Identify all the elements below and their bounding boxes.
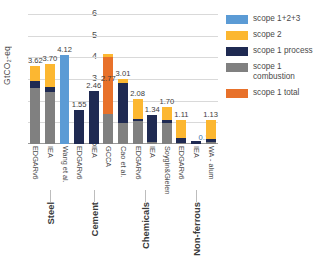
bar-slot: 1.13: [203, 14, 218, 144]
group-label-steel: Steel: [28, 190, 72, 270]
x-tick-text: EDGARv6: [31, 146, 40, 180]
bar-segment: [133, 121, 143, 144]
bar-segment: [30, 88, 40, 144]
x-tick-text: EDGARv6: [133, 146, 142, 180]
legend-swatch-icon: [226, 15, 248, 24]
bar-segment: [118, 83, 128, 123]
bar[interactable]: [147, 115, 157, 144]
x-tick-text: IEA: [148, 146, 157, 158]
x-tick-text: IEA: [45, 146, 54, 158]
bar-segment: [89, 91, 99, 144]
bar[interactable]: [162, 107, 172, 144]
legend-item[interactable]: scope 1 combustion: [226, 62, 329, 82]
x-tick-label: IEA: [189, 146, 204, 192]
bar-value-label: 1.70: [159, 97, 174, 106]
bar[interactable]: [118, 79, 128, 144]
bar-segment: [30, 81, 40, 88]
bar-segment: [147, 142, 157, 144]
bar-segment: [45, 92, 55, 144]
bar-value-label: 2.08: [130, 89, 145, 98]
bar[interactable]: [133, 99, 143, 144]
group-tick: [145, 190, 146, 202]
bar-value-label: 3.70: [43, 54, 58, 63]
bar-segment: [60, 55, 70, 144]
legend-swatch-icon: [226, 89, 248, 98]
x-tick-label: IEA: [145, 146, 160, 192]
group-label-text: Chemicals: [139, 202, 150, 249]
legend-label: scope 1 combustion: [253, 62, 295, 82]
bar-value-label: 3.01: [116, 69, 131, 78]
legend-label: scope 1+2+3: [253, 14, 300, 24]
group-tick: [94, 190, 95, 202]
x-axis-group-labels: SteelCementChemicalsNon-ferrous: [28, 190, 218, 270]
bar-slot: 2.77: [101, 14, 116, 144]
bar-segment: [103, 54, 113, 57]
bar-segment: [176, 143, 186, 144]
bar-slot: 1.11: [174, 14, 189, 144]
x-tick-label: WA - alum: [203, 146, 218, 192]
bar[interactable]: [206, 120, 216, 144]
bar-segment: [103, 114, 113, 144]
legend-item[interactable]: scope 1 process: [226, 46, 329, 56]
group-tick: [50, 190, 51, 202]
x-tick-text: Soygin&Gielen: [162, 146, 171, 194]
legend-label: scope 1 process: [253, 46, 313, 56]
x-tick-text: IEA: [89, 146, 98, 158]
legend-label: scope 2: [253, 30, 282, 40]
bar[interactable]: [176, 120, 186, 144]
bar-value-label: 2.77: [101, 74, 116, 83]
group-label-non-ferrous: Non-ferrous: [174, 190, 218, 270]
bar-slot: 1.34: [145, 14, 160, 144]
group-label-text: Steel: [44, 202, 55, 224]
bar[interactable]: [103, 84, 113, 144]
legend-item[interactable]: scope 2: [226, 30, 329, 40]
bar[interactable]: [30, 66, 40, 144]
group-tick: [196, 190, 197, 202]
bar-segment: [206, 142, 216, 144]
x-tick-label: Soygin&Gielen: [160, 146, 175, 192]
bar-value-label: 3.62: [28, 56, 43, 65]
bar-segment: [45, 87, 55, 92]
bar-segment: [162, 107, 172, 119]
bar-slot: 3.62: [28, 14, 43, 144]
x-tick-label: Cao et al.: [116, 146, 131, 192]
bar-value-label: 1.13: [203, 110, 218, 119]
group-label-text: Non-ferrous: [191, 202, 202, 256]
x-tick-label: EDGARv6: [130, 146, 145, 192]
x-tick-label: GCCA: [101, 146, 116, 192]
x-tick-label: EDGARv6: [174, 146, 189, 192]
y-axis-label: GtCO₂-eq: [2, 46, 12, 85]
x-tick-label: Wang et al.: [57, 146, 72, 192]
x-tick-text: EDGARv6: [177, 146, 186, 180]
bar-value-label: 1.11: [174, 110, 188, 119]
bar-segment: [176, 120, 186, 138]
group-label-text: Cement: [88, 202, 99, 236]
bar-segment: [147, 115, 157, 142]
bar[interactable]: [89, 91, 99, 144]
bar-segment: [162, 120, 172, 124]
bar-slot: 1.70: [160, 14, 175, 144]
x-tick-label: EDGARv6: [72, 146, 87, 192]
bar-slot: 0.16: [189, 14, 204, 144]
legend-item[interactable]: scope 1 total: [226, 88, 329, 98]
legend-item[interactable]: scope 1+2+3: [226, 14, 329, 24]
bar-value-label: 1.55: [72, 100, 87, 109]
group-label-cement: Cement: [72, 190, 116, 270]
x-tick-text: GCCA: [104, 146, 113, 167]
x-tick-text: Wang et al.: [60, 146, 69, 183]
legend-swatch-icon: [226, 63, 248, 72]
bar[interactable]: [60, 55, 70, 144]
bar-slot: 2.08: [130, 14, 145, 144]
bar[interactable]: [45, 64, 55, 144]
bar-value-label: 1.34: [145, 105, 160, 114]
bar-segment: [206, 120, 216, 140]
x-tick-text: EDGARv6: [75, 146, 84, 180]
x-tick-label: IEA: [43, 146, 58, 192]
bar-segment: [74, 110, 84, 144]
bar-slot: 1.55: [72, 14, 87, 144]
group-label-chemicals: Chemicals: [116, 190, 174, 270]
legend-swatch-icon: [226, 47, 248, 56]
bar[interactable]: [74, 110, 84, 144]
bar-segment: [206, 139, 216, 142]
bar-series-container: 3.623.704.121.552.462.773.012.081.341.70…: [28, 14, 218, 144]
